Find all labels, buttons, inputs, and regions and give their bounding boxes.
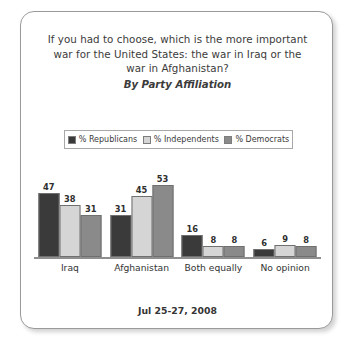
- bar: [224, 246, 245, 257]
- bar-value-label: 47: [38, 182, 59, 192]
- bar-wrapper: 47: [38, 177, 59, 257]
- category-label: Both equally: [178, 262, 250, 273]
- bar: [296, 246, 317, 257]
- bar-wrapper: 31: [80, 177, 101, 257]
- title-line-3: war in Afghanistan?: [33, 61, 322, 76]
- chart-subtitle: By Party Affiliation: [33, 77, 322, 93]
- x-axis-line: [34, 257, 321, 259]
- bar-value-label: 45: [131, 185, 152, 195]
- title-line-2: war for the United States: the war in Ir…: [33, 47, 322, 62]
- legend-swatch-republicans: [68, 136, 76, 144]
- bar-value-label: 31: [80, 204, 101, 214]
- legend-label-independents: % Independents: [154, 135, 219, 144]
- legend-swatch-independents: [143, 136, 151, 144]
- bar-set: 473831: [38, 177, 101, 257]
- bar-group: 314553: [106, 177, 178, 257]
- chart-title-block: If you had to choose, which is the more …: [33, 32, 322, 93]
- bar-value-label: 53: [152, 174, 173, 184]
- bar-wrapper: 38: [59, 177, 80, 257]
- legend-label-republicans: % Republicans: [79, 135, 137, 144]
- bar-wrapper: 53: [152, 177, 173, 257]
- legend-label-democrats: % Democrats: [235, 135, 289, 144]
- plot-area: 4738313145531688698: [34, 177, 321, 257]
- bar-group: 698: [249, 177, 321, 257]
- bar: [80, 215, 101, 257]
- bar-wrapper: 6: [254, 177, 275, 257]
- bar-value-label: 31: [110, 204, 131, 214]
- bar: [38, 193, 59, 257]
- bar-group: 473831: [34, 177, 106, 257]
- bar-set: 1688: [182, 177, 245, 257]
- bar-wrapper: 9: [275, 177, 296, 257]
- bar: [275, 245, 296, 257]
- chart-legend: % Republicans % Independents % Democrats: [64, 130, 293, 149]
- bar-wrapper: 16: [182, 177, 203, 257]
- bar: [203, 246, 224, 257]
- bar: [131, 196, 152, 257]
- bar: [182, 235, 203, 257]
- chart-page: If you had to choose, which is the more …: [0, 0, 355, 352]
- legend-swatch-democrats: [224, 136, 232, 144]
- bar-wrapper: 8: [296, 177, 317, 257]
- bar-wrapper: 31: [110, 177, 131, 257]
- bar-group: 1688: [178, 177, 250, 257]
- legend-item-republicans: % Republicans: [68, 135, 137, 144]
- bar-value-label: 8: [224, 235, 245, 245]
- bar-value-label: 38: [59, 194, 80, 204]
- category-label: No opinion: [249, 262, 321, 273]
- bar-set: 698: [254, 177, 317, 257]
- bar-wrapper: 45: [131, 177, 152, 257]
- legend-item-independents: % Independents: [143, 135, 219, 144]
- title-line-1: If you had to choose, which is the more …: [33, 32, 322, 47]
- legend-item-democrats: % Democrats: [224, 135, 289, 144]
- chart-footer-date: Jul 25-27, 2008: [21, 305, 334, 316]
- bar: [152, 185, 173, 257]
- bar-wrapper: 8: [224, 177, 245, 257]
- chart-card: If you had to choose, which is the more …: [20, 11, 333, 329]
- bar-set: 314553: [110, 177, 173, 257]
- bar-value-label: 6: [254, 238, 275, 248]
- bar-groups: 4738313145531688698: [34, 177, 321, 257]
- bar-value-label: 8: [296, 235, 317, 245]
- bar: [110, 215, 131, 257]
- bar-value-label: 9: [275, 234, 296, 244]
- category-label: Afghanistan: [106, 262, 178, 273]
- category-labels: IraqAfghanistanBoth equallyNo opinion: [34, 262, 321, 273]
- bar: [59, 205, 80, 257]
- bar-value-label: 16: [182, 224, 203, 234]
- bar-value-label: 8: [203, 235, 224, 245]
- category-label: Iraq: [34, 262, 106, 273]
- bar: [254, 249, 275, 257]
- bar-wrapper: 8: [203, 177, 224, 257]
